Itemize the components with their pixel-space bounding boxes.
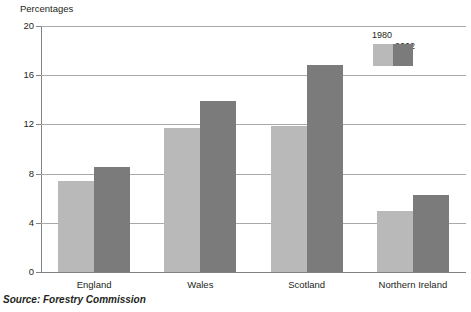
bar xyxy=(307,65,343,272)
y-axis-tick-label: 0 xyxy=(29,267,34,277)
x-axis-category-label: England xyxy=(34,279,154,290)
y-axis-tick-label: 4 xyxy=(29,218,34,228)
bar xyxy=(413,195,449,272)
legend: 1980 2002 xyxy=(371,30,433,66)
y-axis-tick-label: 16 xyxy=(23,70,34,80)
y-axis-tick-label: 12 xyxy=(23,119,34,129)
y-axis-tick-label: 20 xyxy=(23,21,34,31)
gridline xyxy=(41,26,466,27)
gridline xyxy=(41,272,466,273)
source-note: Source: Forestry Commission xyxy=(3,294,146,306)
gridline xyxy=(41,75,466,76)
gridline xyxy=(41,124,466,125)
x-axis-category-label: Scotland xyxy=(247,279,367,290)
bar xyxy=(200,101,236,272)
bar xyxy=(377,211,413,273)
x-axis-category-label: Wales xyxy=(140,279,260,290)
bar xyxy=(271,126,307,272)
bar-chart: Percentages 048121620 EnglandWalesScotla… xyxy=(0,0,471,312)
x-axis-category-label: Northern Ireland xyxy=(353,279,471,290)
bar xyxy=(164,128,200,272)
legend-swatch-2002 xyxy=(393,44,413,66)
legend-swatch-1980 xyxy=(373,44,393,66)
bar xyxy=(94,167,130,272)
bar xyxy=(58,181,94,272)
y-axis-title: Percentages xyxy=(20,3,73,14)
legend-label-1980: 1980 xyxy=(372,30,392,40)
y-axis-tick-label: 8 xyxy=(29,169,34,179)
